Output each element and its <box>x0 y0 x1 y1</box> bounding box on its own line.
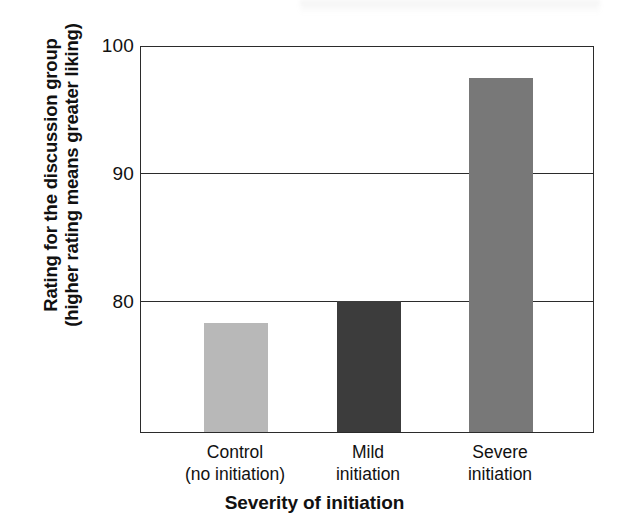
scan-artifact <box>300 0 600 14</box>
x-tick-severe-line-2: initiation <box>405 463 595 485</box>
y-axis-title-line-1: Rating for the discussion group <box>41 38 62 311</box>
y-tick-label-100: 100 <box>88 35 134 57</box>
y-axis-title-line-2: (higher rating means greater liking) <box>62 23 83 326</box>
y-tick-label-80: 80 <box>88 291 134 313</box>
x-tick-severe-line-1: Severe <box>405 441 595 463</box>
bar-mild-initiation <box>337 301 401 432</box>
y-tick-label-90: 90 <box>88 163 134 185</box>
plot-area <box>140 46 594 433</box>
x-tick-label-severe: Severe initiation <box>405 441 595 485</box>
y-axis-title: Rating for the discussion group (higher … <box>32 5 92 345</box>
bar-chart-figure: Rating for the discussion group (higher … <box>0 0 629 527</box>
x-axis-title: Severity of initiation <box>0 492 629 514</box>
bar-control <box>204 323 268 432</box>
y-axis-ticks: 100 90 80 <box>84 0 134 527</box>
bar-severe-initiation <box>469 78 533 432</box>
